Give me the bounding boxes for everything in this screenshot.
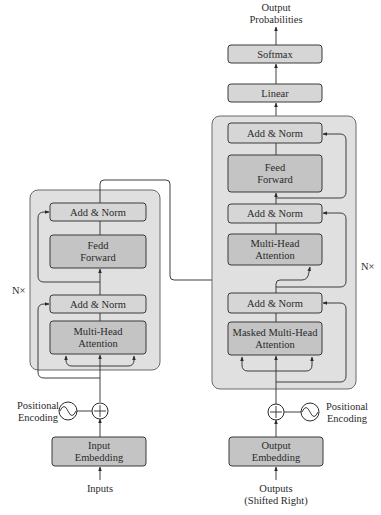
encoder-add-norm-bottom: Add & Norm [50, 295, 146, 313]
encoder-repeat-label: N× [12, 285, 26, 296]
encoder-positional-encoding-label-2: Encoding [18, 412, 59, 423]
decoder-masked-attention-label-1: Masked Multi-Head [233, 327, 319, 338]
softmax-label: Softmax [257, 49, 293, 60]
encoder-positional-encoding-label-1: Positional [17, 400, 59, 411]
decoder-add-norm-3: Add & Norm [228, 293, 322, 313]
encoder-add-norm-top-label: Add & Norm [70, 207, 126, 218]
encoder-feed-forward-label-2: Forward [80, 252, 116, 263]
output-probabilities-label-2: Probabilities [249, 14, 302, 25]
encoder-multi-head-attention: Multi-Head Attention [50, 321, 146, 354]
output-embedding-label-1: Output [261, 440, 290, 451]
outputs-label-1: Outputs [259, 483, 292, 494]
decoder-cross-attention-label-1: Multi-Head [251, 238, 301, 249]
decoder-feed-forward: Feed Forward [228, 155, 322, 192]
linear-box: Linear [228, 84, 322, 102]
decoder-repeat-label: N× [361, 261, 375, 272]
decoder-add-norm-3-label: Add & Norm [247, 298, 303, 309]
encoder-add-norm-bottom-label: Add & Norm [70, 299, 126, 310]
input-embedding-label-2: Embedding [75, 452, 124, 463]
transformer-diagram: Output Probabilities Softmax Linear N× A… [0, 0, 381, 515]
input-embedding-box: Input Embedding [52, 437, 146, 466]
softmax-box: Softmax [228, 45, 322, 63]
decoder-add-norm-2: Add & Norm [228, 204, 322, 223]
decoder-add-norm-2-label: Add & Norm [247, 208, 303, 219]
encoder-add-icon [92, 403, 108, 419]
decoder-cross-attention-label-2: Attention [255, 250, 295, 261]
decoder-positional-encoding-label-1: Positional [326, 401, 368, 412]
decoder-cross-attention: Multi-Head Attention [228, 234, 322, 265]
decoder-add-icon [268, 404, 284, 420]
decoder-add-norm-1: Add & Norm [228, 123, 322, 143]
decoder-sine-wave-icon [301, 403, 319, 421]
encoder-feed-forward-label-1: Fedd [88, 240, 110, 251]
decoder-feed-forward-label-2: Forward [257, 174, 293, 185]
decoder-masked-attention-label-2: Attention [255, 339, 295, 350]
encoder-attention-label-2: Attention [78, 338, 118, 349]
output-embedding-label-2: Embedding [252, 452, 301, 463]
decoder-feed-forward-label-1: Feed [265, 162, 286, 173]
decoder-positional-encoding-label-2: Encoding [327, 413, 368, 424]
output-embedding-box: Output Embedding [229, 437, 323, 466]
encoder-add-norm-top: Add & Norm [50, 203, 146, 221]
output-probabilities-label-1: Output [261, 2, 290, 13]
decoder-add-norm-1-label: Add & Norm [247, 128, 303, 139]
encoder-feed-forward: Fedd Forward [50, 235, 146, 268]
input-embedding-label-1: Input [88, 440, 110, 451]
outputs-label-2: (Shifted Right) [244, 495, 308, 507]
encoder-sine-wave-icon [59, 402, 77, 420]
encoder-attention-label-1: Multi-Head [74, 326, 124, 337]
inputs-label: Inputs [87, 483, 113, 494]
decoder-masked-attention: Masked Multi-Head Attention [228, 322, 322, 355]
linear-label: Linear [261, 88, 289, 99]
